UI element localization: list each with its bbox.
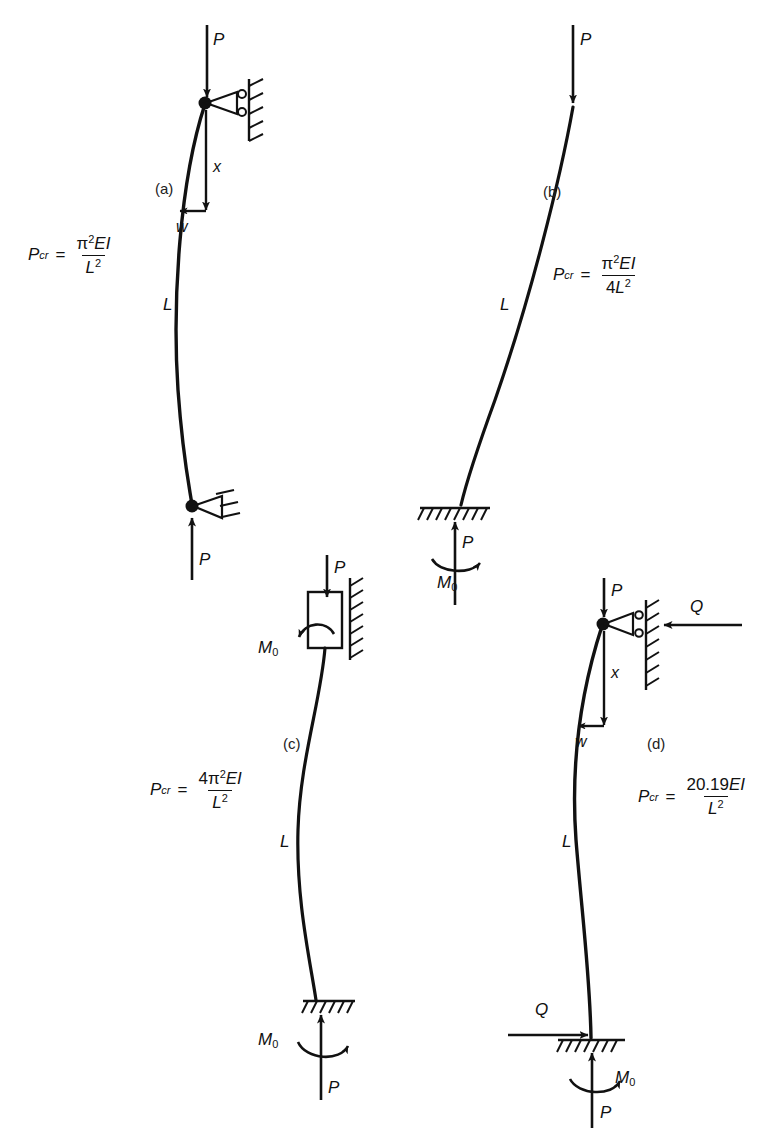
case-a-formula-subscript: cr [39, 249, 48, 261]
case-b-label: (b) [543, 183, 561, 200]
case-c-moment-bottom-label: M0 [258, 1030, 278, 1050]
case-c-moment-top-subscript: 0 [272, 646, 278, 658]
case-a-num-pi: π [76, 234, 88, 253]
case-c-num-prefix: 4 [198, 769, 207, 788]
case-d-moment-label: M0 [615, 1068, 635, 1088]
case-b-num-pi: π [601, 254, 613, 273]
case-b-formula-symbol: P [553, 265, 564, 285]
case-d-diagram [508, 578, 742, 1128]
case-c-ground-hatch [302, 1001, 353, 1013]
case-a-formula-denominator: L2 [82, 255, 106, 278]
case-d-num-tail: EI [729, 775, 745, 794]
case-b-den-base: L [615, 278, 624, 297]
case-a-diagram [176, 25, 263, 580]
case-c-slider-block [308, 592, 342, 648]
case-c-formula-numerator: 4π2EI [194, 768, 245, 790]
case-c-moment-bottom-arc [298, 1042, 348, 1057]
case-b-formula-subscript: cr [564, 269, 573, 281]
case-b-formula-denominator: 4L2 [602, 275, 635, 298]
case-b-ground-hatch [418, 508, 487, 520]
case-b-column [461, 107, 573, 505]
case-b-den-exponent: 2 [625, 277, 631, 289]
case-d-formula: Pcr = 20.19EI L2 [638, 775, 749, 818]
case-c-moment-top-symbol: M [258, 638, 272, 657]
case-b-formula-numerator: π2EI [597, 253, 639, 275]
case-a-formula: Pcr = π2EI L2 [28, 233, 114, 277]
case-d-num-coefficient: 20.19 [686, 775, 729, 794]
case-c-label: (c) [283, 735, 301, 752]
case-c-formula-fraction: 4π2EI L2 [194, 768, 245, 812]
case-d-column [574, 626, 602, 1038]
case-c-num-tail: EI [226, 769, 242, 788]
case-d-formula-denominator: L2 [704, 796, 728, 819]
case-d-formula-subscript: cr [649, 791, 658, 803]
case-d-label: (d) [647, 735, 665, 752]
case-d-formula-numerator: 20.19EI [682, 775, 749, 796]
case-a-num-tail: EI [94, 234, 110, 253]
case-d-shear-bottom-label: Q [535, 1000, 548, 1020]
case-c-moment-top-label: M0 [258, 638, 278, 658]
case-c-formula-denominator: L2 [208, 790, 232, 813]
case-a-formula-fraction: π2EI L2 [72, 233, 114, 277]
case-d-x-label: x [611, 664, 619, 682]
case-a-den-exponent: 2 [95, 257, 101, 269]
case-d-w-label: w [575, 733, 587, 751]
case-d-den-exponent: 2 [717, 798, 723, 810]
case-d-load-top-label: P [611, 581, 622, 601]
case-b-moment-symbol: M [437, 573, 451, 592]
case-a-pin-hatch [216, 490, 240, 517]
case-d-moment-subscript: 0 [629, 1076, 635, 1088]
case-c-den-base: L [212, 793, 221, 812]
case-d-roller-circle-upper [635, 611, 643, 619]
case-a-formula-equals: = [56, 245, 66, 265]
case-a-x-label: x [213, 158, 221, 176]
case-d-wall-hatch [646, 600, 659, 686]
case-a-length-label: L [163, 295, 172, 315]
case-b-formula-fraction: π2EI 4L2 [597, 253, 639, 297]
case-d-formula-symbol: P [638, 787, 649, 807]
case-c-formula: Pcr = 4π2EI L2 [150, 768, 246, 812]
buckling-figure [0, 0, 763, 1141]
case-a-roller-circle-lower [238, 108, 246, 116]
case-a-label: (a) [155, 180, 173, 197]
case-a-pin-triangle [193, 496, 222, 518]
case-b-moment-label: M0 [437, 573, 457, 593]
case-d-formula-equals: = [666, 787, 676, 807]
case-d-moment-symbol: M [615, 1068, 629, 1087]
case-c-column [298, 648, 325, 1000]
case-d-formula-fraction: 20.19EI L2 [682, 775, 749, 818]
case-d-den-base: L [708, 799, 717, 818]
case-b-length-label: L [500, 295, 509, 315]
case-d-load-bottom-label: P [600, 1103, 611, 1123]
case-d-roller-circle-lower [635, 629, 643, 637]
case-c-load-top-label: P [334, 558, 345, 578]
case-b-load-top-label: P [580, 30, 591, 50]
case-c-den-exponent: 2 [222, 792, 228, 804]
case-c-formula-subscript: cr [161, 784, 170, 796]
case-a-roller-circle-upper [238, 90, 246, 98]
case-d-length-label: L [562, 832, 571, 852]
case-a-den-base: L [86, 258, 95, 277]
case-d-shear-top-label: Q [690, 597, 703, 617]
case-a-formula-symbol: P [28, 245, 39, 265]
case-c-diagram [298, 555, 363, 1100]
case-b-diagram [418, 25, 573, 605]
case-b-formula: Pcr = π2EI 4L2 [553, 253, 639, 297]
case-c-num-pi: π [208, 769, 220, 788]
case-c-formula-equals: = [178, 780, 188, 800]
case-d-ground-hatch [557, 1040, 617, 1052]
case-c-moment-bottom-symbol: M [258, 1030, 272, 1049]
case-c-formula-symbol: P [150, 780, 161, 800]
case-c-moment-top-arc [299, 625, 334, 637]
case-c-moment-bottom-subscript: 0 [272, 1038, 278, 1050]
case-b-moment-subscript: 0 [451, 581, 457, 593]
case-d-moment-arc [570, 1079, 620, 1092]
case-a-load-bottom-label: P [199, 550, 210, 570]
case-c-length-label: L [280, 832, 289, 852]
case-a-wall-hatch [249, 79, 263, 141]
case-b-den-prefix: 4 [606, 278, 615, 297]
case-b-num-tail: EI [619, 254, 635, 273]
case-a-w-label: w [176, 218, 188, 236]
case-a-column [176, 104, 205, 505]
case-b-formula-equals: = [581, 265, 591, 285]
